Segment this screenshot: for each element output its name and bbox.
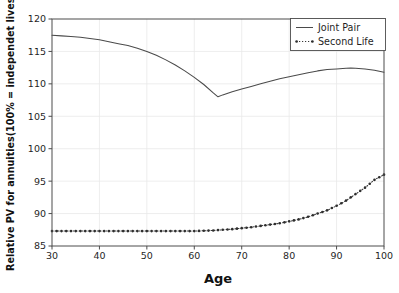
data-point-second-life (174, 230, 177, 233)
data-point-second-life (278, 222, 281, 225)
data-point-second-life (350, 196, 353, 199)
data-point-second-life (297, 218, 300, 221)
data-point-second-life (345, 199, 348, 202)
data-point-second-life (60, 230, 63, 233)
data-point-second-life (146, 230, 149, 233)
data-point-second-life (55, 230, 58, 233)
data-point-second-life (221, 228, 224, 231)
y-tick-label-95: 95 (34, 176, 46, 187)
data-point-second-life (359, 190, 362, 193)
data-point-second-life (108, 230, 111, 233)
data-point-second-life (112, 230, 115, 233)
x-axis-ticks: 30405060708090100 (46, 246, 393, 261)
data-point-second-life (193, 230, 196, 233)
data-point-second-life (212, 229, 215, 232)
data-point-second-life (93, 230, 96, 233)
data-point-second-life (373, 179, 376, 182)
x-tick-label-90: 90 (331, 250, 343, 261)
x-axis-title: Age (204, 271, 232, 286)
data-point-second-life (288, 220, 291, 223)
data-point-second-life (122, 230, 125, 233)
data-point-second-life (184, 230, 187, 233)
data-point-second-life (202, 229, 205, 232)
data-point-second-life (84, 230, 87, 233)
data-point-second-life (264, 224, 267, 227)
data-point-second-life (316, 212, 319, 215)
data-point-second-life (74, 230, 77, 233)
y-tick-label-105: 105 (28, 111, 46, 122)
data-point-second-life (141, 230, 144, 233)
data-point-second-life (269, 223, 272, 226)
y-tick-label-115: 115 (28, 46, 46, 57)
y-axis-title: Relative PV for annuities(100% = indepen… (5, 0, 16, 271)
data-point-second-life (331, 207, 334, 210)
data-point-second-life (165, 230, 168, 233)
legend-swatch-marker-end (311, 40, 314, 43)
y-tick-label-100: 100 (28, 143, 46, 154)
data-point-second-life (198, 230, 201, 233)
y-tick-label-85: 85 (34, 240, 46, 251)
data-point-second-life (340, 202, 343, 205)
x-tick-label-30: 30 (46, 250, 58, 261)
data-point-second-life (65, 230, 68, 233)
data-point-second-life (155, 230, 158, 233)
data-point-second-life (378, 176, 381, 179)
y-axis-ticks: 859095100105110115120 (28, 13, 52, 251)
data-point-second-life (79, 230, 82, 233)
legend-label-joint-pair: Joint Pair (317, 22, 360, 33)
data-point-second-life (312, 214, 315, 217)
x-tick-label-50: 50 (141, 250, 153, 261)
data-point-second-life (136, 230, 139, 233)
data-point-second-life (103, 230, 106, 233)
x-tick-label-100: 100 (375, 250, 393, 261)
x-tick-label-60: 60 (188, 250, 200, 261)
data-point-second-life (283, 221, 286, 224)
data-point-second-life (326, 209, 329, 212)
data-point-second-life (150, 230, 153, 233)
line-chart: 30405060708090100 859095100105110115120 … (0, 0, 399, 293)
data-point-second-life (255, 225, 258, 228)
data-point-second-life (236, 227, 239, 230)
data-point-second-life (240, 227, 243, 230)
data-point-second-life (335, 204, 338, 207)
data-point-second-life (354, 193, 357, 196)
legend-swatch-marker-start (295, 40, 298, 43)
data-point-second-life (259, 225, 262, 228)
x-tick-label-40: 40 (93, 250, 105, 261)
y-tick-label-90: 90 (34, 208, 46, 219)
y-tick-label-110: 110 (28, 78, 46, 89)
data-point-second-life (70, 230, 73, 233)
data-point-second-life (217, 229, 220, 232)
data-point-second-life (226, 228, 229, 231)
data-point-second-life (207, 229, 210, 232)
data-point-second-life (250, 226, 253, 229)
data-point-second-life (231, 228, 234, 231)
data-point-second-life (188, 230, 191, 233)
data-point-second-life (131, 230, 134, 233)
data-point-second-life (321, 211, 324, 214)
chart-legend[interactable]: Joint Pair Second Life (291, 19, 386, 51)
y-tick-label-120: 120 (28, 13, 46, 24)
data-point-second-life (127, 230, 130, 233)
chart-figure: 30405060708090100 859095100105110115120 … (0, 0, 399, 293)
x-tick-label-70: 70 (236, 250, 248, 261)
data-point-second-life (169, 230, 172, 233)
plot-area-background (52, 19, 384, 246)
data-point-second-life (274, 223, 277, 226)
data-point-second-life (98, 230, 101, 233)
data-point-second-life (368, 182, 371, 185)
data-point-second-life (117, 230, 120, 233)
data-point-second-life (245, 226, 248, 229)
data-point-second-life (89, 230, 92, 233)
data-point-second-life (364, 186, 367, 189)
data-point-second-life (293, 219, 296, 222)
data-point-second-life (179, 230, 182, 233)
legend-label-second-life: Second Life (318, 36, 374, 47)
data-point-second-life (302, 217, 305, 220)
x-tick-label-80: 80 (283, 250, 295, 261)
data-point-second-life (160, 230, 163, 233)
data-point-second-life (307, 216, 310, 219)
